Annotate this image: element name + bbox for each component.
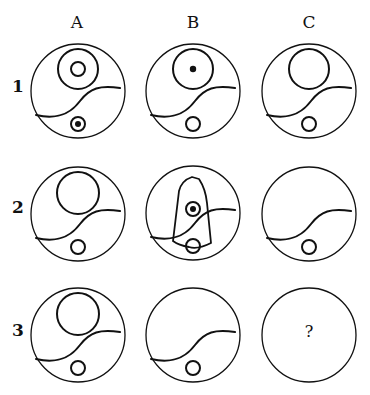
outer-circle (262, 167, 356, 261)
cell-b1 (146, 44, 240, 138)
s-curve (151, 209, 235, 239)
small-ring (186, 117, 200, 131)
s-curve (151, 331, 235, 361)
big-circle (57, 172, 99, 214)
big-circle (289, 49, 329, 89)
cell-a2 (31, 167, 125, 261)
outer-circle (146, 44, 240, 138)
cell-b3 (146, 288, 240, 382)
small-dot (75, 121, 81, 127)
inner-ring (71, 62, 85, 76)
cell-b2 (146, 166, 240, 260)
cell-a1 (31, 44, 125, 138)
small-ring (302, 240, 316, 254)
outer-circle (146, 166, 240, 260)
s-curve (267, 87, 351, 117)
inner-dot (190, 66, 196, 72)
big-circle (57, 293, 99, 335)
small-ring (186, 361, 200, 375)
question-mark: ? (296, 322, 322, 341)
small-ring (71, 361, 85, 375)
small-ring (71, 240, 85, 254)
s-curve (151, 87, 235, 117)
outer-circle (146, 288, 240, 382)
small-ring (302, 117, 316, 131)
s-curve (267, 210, 351, 240)
inner-dot (190, 206, 196, 212)
cell-c2 (262, 167, 356, 261)
outer-circle (262, 44, 356, 138)
cell-a3 (31, 288, 125, 382)
cell-c1 (262, 44, 356, 138)
big-circle (58, 49, 98, 89)
s-curve (36, 87, 120, 117)
